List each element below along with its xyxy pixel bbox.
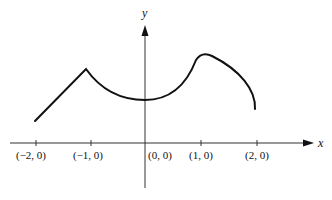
tick-label-1: (1, 0) (189, 149, 213, 162)
tick-label-neg1: (−1, 0) (73, 149, 103, 162)
tick-label-origin: (0, 0) (148, 149, 172, 162)
tick-label-neg2: (−2, 0) (16, 149, 46, 162)
y-axis-label: y (141, 6, 148, 20)
x-axis-arrow-icon (303, 140, 314, 147)
x-axis-label: x (317, 136, 324, 150)
function-graph: x y (−2, 0) (−1, 0) (0, 0) (1, 0) (2, 0) (0, 0, 332, 200)
tick-label-2: (2, 0) (245, 149, 269, 162)
y-axis-arrow-icon (142, 25, 149, 36)
